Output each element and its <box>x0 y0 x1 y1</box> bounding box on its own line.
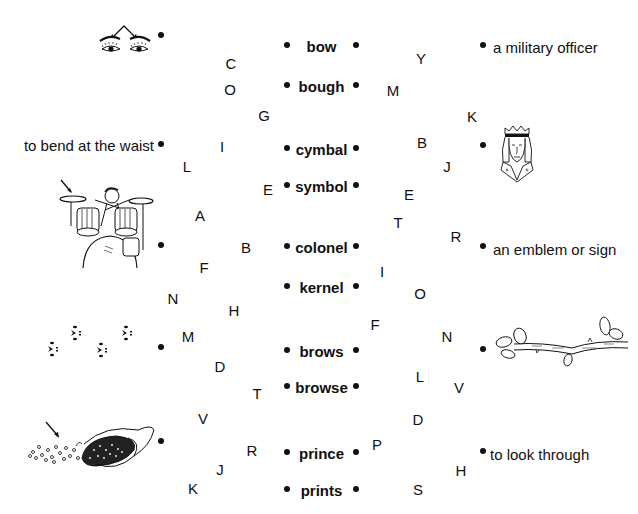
eyebrows-icon <box>98 22 156 56</box>
word-right-dot[interactable] <box>353 383 359 389</box>
scatter-letter: D <box>215 358 226 375</box>
scatter-letter: S <box>413 481 423 498</box>
right-dot-5[interactable] <box>480 448 486 454</box>
word-left-dot[interactable] <box>284 82 290 88</box>
scatter-letter: I <box>220 138 224 155</box>
word-left-dot[interactable] <box>284 243 290 249</box>
scatter-letter: G <box>258 107 270 124</box>
word-prince: prince <box>299 445 344 462</box>
scatter-letter: E <box>263 181 273 198</box>
scatter-letter: V <box>198 410 208 427</box>
paw-prints-icon <box>42 320 142 365</box>
scatter-letter: A <box>195 207 205 224</box>
scatter-letter: D <box>413 411 424 428</box>
word-brows: brows <box>299 343 343 360</box>
word-bough: bough <box>299 78 345 95</box>
word-right-dot[interactable] <box>353 82 359 88</box>
definition-look-through: to look through <box>490 446 589 463</box>
word-right-dot[interactable] <box>353 243 359 249</box>
scatter-letter: K <box>467 108 477 125</box>
definition-military-officer: a military officer <box>493 39 598 56</box>
scatter-letter: M <box>182 328 195 345</box>
left-dot-2[interactable] <box>158 141 164 147</box>
word-right-dot[interactable] <box>353 182 359 188</box>
scatter-letter: B <box>417 134 427 151</box>
left-dot-5[interactable] <box>158 438 164 444</box>
left-dot-3[interactable] <box>158 242 164 248</box>
word-right-dot[interactable] <box>353 283 359 289</box>
corn-kernel-icon <box>26 420 156 475</box>
scatter-letter: V <box>454 379 464 396</box>
word-right-dot[interactable] <box>353 145 359 151</box>
word-cymbal: cymbal <box>296 141 348 158</box>
word-left-dot[interactable] <box>284 283 290 289</box>
scatter-letter: F <box>199 259 208 276</box>
right-dot-2[interactable] <box>480 142 486 148</box>
word-browse: browse <box>295 379 348 396</box>
word-left-dot[interactable] <box>284 182 290 188</box>
right-dot-1[interactable] <box>480 42 486 48</box>
word-right-dot[interactable] <box>353 347 359 353</box>
right-dot-3[interactable] <box>480 243 486 249</box>
scatter-letter: H <box>229 302 240 319</box>
word-left-dot[interactable] <box>284 42 290 48</box>
drummer-icon <box>55 178 155 268</box>
right-dot-4[interactable] <box>480 346 486 352</box>
scatter-letter: T <box>252 385 261 402</box>
scatter-letter: K <box>188 480 198 497</box>
scatter-letter: R <box>247 442 258 459</box>
scatter-letter: B <box>241 239 251 256</box>
word-prints: prints <box>301 482 343 499</box>
scatter-letter: T <box>393 214 402 231</box>
scatter-letter: L <box>183 158 191 175</box>
scatter-letter: C <box>226 55 237 72</box>
word-right-dot[interactable] <box>353 486 359 492</box>
scatter-letter: I <box>380 263 384 280</box>
word-left-dot[interactable] <box>284 347 290 353</box>
scatter-letter: H <box>456 462 467 479</box>
scatter-letter: R <box>451 228 462 245</box>
word-right-dot[interactable] <box>353 449 359 455</box>
word-colonel: colonel <box>295 239 348 256</box>
word-left-dot[interactable] <box>284 383 290 389</box>
scatter-letter: O <box>224 81 236 98</box>
scatter-letter: O <box>414 285 426 302</box>
scatter-letter: J <box>443 158 451 175</box>
scatter-letter: Y <box>416 50 426 67</box>
scatter-letter: E <box>404 186 414 203</box>
word-kernel: kernel <box>299 279 343 296</box>
definition-emblem-or-sign: an emblem or sign <box>493 241 616 258</box>
word-left-dot[interactable] <box>284 486 290 492</box>
scatter-letter: P <box>372 436 382 453</box>
word-left-dot[interactable] <box>284 449 290 455</box>
word-left-dot[interactable] <box>284 145 290 151</box>
scatter-letter: J <box>216 461 224 478</box>
prince-icon <box>497 124 537 184</box>
tree-branch-icon <box>492 314 634 366</box>
word-bow: bow <box>307 38 337 55</box>
word-symbol: symbol <box>295 178 348 195</box>
scatter-letter: L <box>416 368 424 385</box>
scatter-letter: M <box>387 82 400 99</box>
definition-bend-at-waist: to bend at the waist <box>24 137 154 154</box>
left-dot-1[interactable] <box>158 32 164 38</box>
left-dot-4[interactable] <box>158 344 164 350</box>
scatter-letter: F <box>370 316 379 333</box>
scatter-letter: N <box>168 290 179 307</box>
scatter-letter: N <box>442 328 453 345</box>
word-right-dot[interactable] <box>353 42 359 48</box>
